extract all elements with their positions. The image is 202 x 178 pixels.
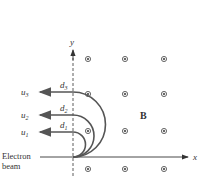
field-dot-icon [161, 128, 166, 133]
electron-beam-diagram: y x B u3 u2 u1 d3 d2 d1 Electron beam [0, 0, 202, 178]
field-dot-icon [122, 128, 127, 133]
exit-label-u1: u1 [21, 127, 29, 138]
beam-label-line2: beam [2, 161, 21, 171]
field-dot-icon [161, 166, 166, 171]
field-label: B [140, 110, 147, 121]
diameter-label-d1: d1 [60, 120, 68, 131]
path-u2 [40, 115, 94, 157]
path-u1 [40, 132, 85, 157]
field-dot-icon [85, 128, 90, 133]
y-axis-label: y [69, 37, 74, 47]
beam-label-line1: Electron [2, 151, 32, 161]
field-dot-icon [122, 166, 127, 171]
magnetic-field-grid [85, 56, 166, 171]
exit-label-u3: u3 [21, 87, 29, 98]
field-dot-icon [122, 56, 127, 61]
diameter-label-d2: d2 [60, 103, 68, 114]
field-dot-icon [161, 91, 166, 96]
diameter-label-d3: d3 [60, 80, 68, 91]
field-dot-icon [161, 56, 166, 61]
x-axis-label: x [192, 152, 197, 162]
exit-label-u2: u2 [21, 110, 29, 121]
field-dot-icon [85, 166, 90, 171]
field-dot-icon [122, 91, 127, 96]
field-dot-icon [85, 56, 90, 61]
